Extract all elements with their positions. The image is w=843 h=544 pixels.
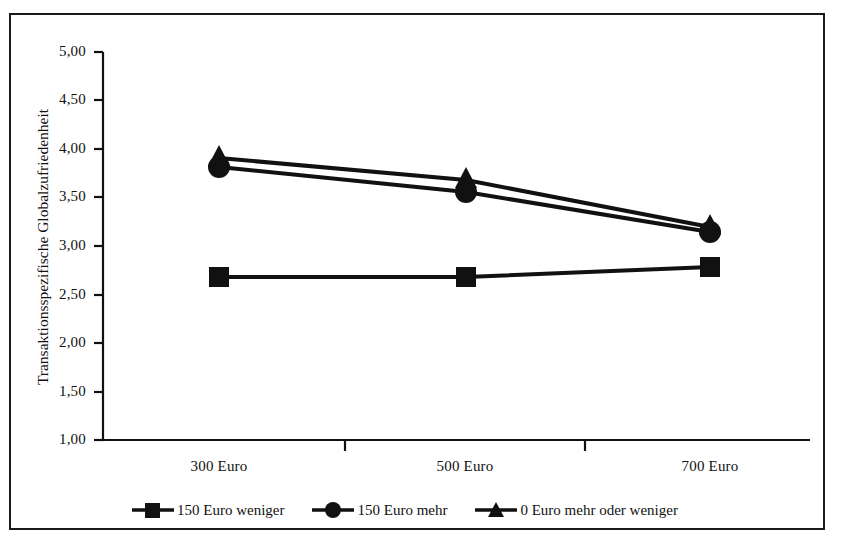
figure-border bbox=[9, 13, 825, 530]
chart-screenshot: 5,00 4,50 4,00 3,50 3,00 2,50 2,00 1,50 … bbox=[0, 0, 843, 544]
